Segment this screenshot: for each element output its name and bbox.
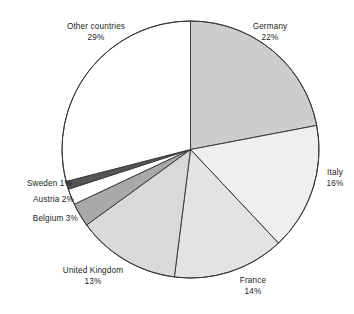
slice-label-germany-name: Germany (228, 22, 312, 33)
slice-label-sweden: Sweden 1% (0, 179, 72, 190)
pie-chart: Other countries 29% Germany 22% Italy 16… (0, 0, 354, 314)
slice-label-united-kingdom: United Kingdom 13% (40, 266, 146, 287)
slice-label-sweden-text: Sweden 1% (0, 179, 72, 190)
slice-label-other-countries-name: Other countries (38, 22, 154, 33)
slice-label-italy: Italy 16% (318, 168, 352, 189)
slice-label-austria-text: Austria 2% (0, 195, 74, 206)
slice-label-belgium: Belgium 3% (0, 214, 78, 225)
slice-label-italy-value: 16% (318, 179, 352, 190)
slice-label-other-countries-value: 29% (38, 33, 154, 44)
slice-label-france: France 14% (216, 276, 290, 297)
slice-label-united-kingdom-name: United Kingdom (40, 266, 146, 277)
slice-label-germany-value: 22% (228, 33, 312, 44)
slice-label-united-kingdom-value: 13% (40, 277, 146, 288)
slice-label-germany: Germany 22% (228, 22, 312, 43)
slice-label-belgium-text: Belgium 3% (0, 214, 78, 225)
slice-label-austria: Austria 2% (0, 195, 74, 206)
slice-label-other-countries: Other countries 29% (38, 22, 154, 43)
slice-label-france-value: 14% (216, 287, 290, 298)
slice-label-italy-name: Italy (318, 168, 352, 179)
slice-label-france-name: France (216, 276, 290, 287)
pie-slices-group (62, 21, 319, 278)
